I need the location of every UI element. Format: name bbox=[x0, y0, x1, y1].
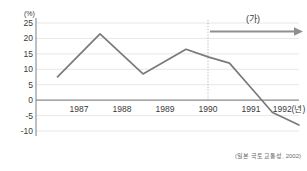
ytick-label-20: 20 bbox=[24, 33, 34, 43]
xtick-label-1988: 1988 bbox=[113, 104, 132, 114]
ytick-label-10: 10 bbox=[24, 64, 34, 74]
xtick-label-1989: 1989 bbox=[156, 104, 175, 114]
y-axis-tick-labels: 25 20 15 10 5 0 -5 -10 bbox=[21, 18, 34, 136]
ytick-label-5: 5 bbox=[28, 80, 33, 90]
ytick-label-minus10: -10 bbox=[21, 126, 34, 136]
land-price-change-rate-chart: 25 20 15 10 5 0 -5 -10 (%) 1987 1988 198… bbox=[0, 0, 307, 171]
horizontal-gridlines bbox=[36, 23, 299, 131]
ytick-label-15: 15 bbox=[24, 49, 34, 59]
period-label-ga: (가) bbox=[246, 14, 260, 24]
period-arrow-group bbox=[210, 27, 303, 36]
land-price-change-data-line bbox=[58, 34, 300, 125]
ytick-label-0: 0 bbox=[28, 95, 33, 105]
xtick-label-1990: 1990 bbox=[199, 104, 218, 114]
chart-canvas: 25 20 15 10 5 0 -5 -10 (%) 1987 1988 198… bbox=[0, 0, 307, 171]
xtick-label-1987: 1987 bbox=[70, 104, 89, 114]
period-arrow-head bbox=[294, 27, 303, 36]
source-citation: (일본 국토 교통성, 2002) bbox=[235, 152, 301, 160]
xtick-label-1992: 1992(년) bbox=[273, 104, 306, 114]
xtick-label-1991: 1991 bbox=[242, 104, 261, 114]
y-axis-unit-label: (%) bbox=[24, 10, 35, 18]
ytick-label-minus5: -5 bbox=[25, 111, 33, 121]
ytick-label-25: 25 bbox=[24, 18, 34, 28]
